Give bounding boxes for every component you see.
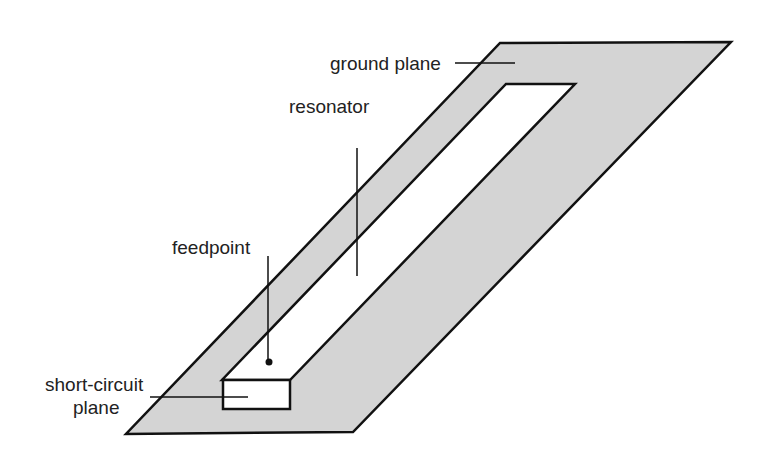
antenna-diagram: ground plane resonator feedpoint short-c…: [0, 0, 768, 458]
short-circuit-plane-box: [223, 380, 290, 409]
short-circuit-label-line1: short-circuit: [45, 374, 144, 395]
feedpoint-label: feedpoint: [172, 237, 251, 258]
short-circuit-label-line2: plane: [73, 397, 120, 418]
feedpoint-dot: [266, 359, 273, 366]
ground-plane-label: ground plane: [330, 53, 441, 74]
resonator-label: resonator: [289, 96, 370, 117]
